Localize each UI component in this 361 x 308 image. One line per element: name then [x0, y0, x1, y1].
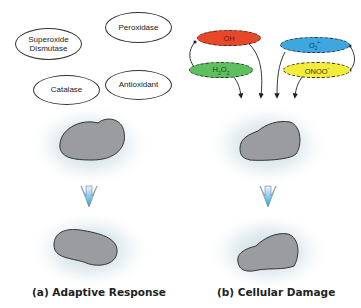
ros-label: ONOO- [305, 65, 330, 76]
caption-adaptive-response: (a) Adaptive Response [32, 286, 166, 298]
ros-superoxide: O2•- [280, 37, 350, 53]
down-arrow-icon-a [81, 186, 97, 207]
enzyme-antioxidant: Antioxidant [105, 70, 172, 100]
ros-label: O2•- [309, 39, 321, 51]
cell-b-top [206, 103, 330, 187]
enzyme-label-line2: Dismutase [30, 44, 68, 53]
enzyme-label: Catalase [51, 85, 83, 94]
ros-label: OH [223, 34, 234, 43]
enzyme-label: Peroxidase [118, 23, 158, 32]
ros-label: H2O2 [213, 65, 230, 76]
enzyme-catalase: Catalase [33, 75, 100, 105]
caption-cellular-damage: (b) Cellular Damage [217, 286, 335, 298]
down-arrow-icon-b [260, 186, 276, 207]
ros-hydroxyl: OH [197, 30, 261, 46]
enzyme-peroxidase: Peroxidase [105, 12, 172, 43]
cell-b-bottom [206, 212, 330, 292]
enzyme-label-line1: Superoxide [28, 35, 68, 44]
cell-a-bottom [28, 210, 152, 290]
enzyme-superoxide-dismutase: SuperoxideDismutase [15, 28, 82, 60]
ros-peroxynitrite: ONOO- [283, 62, 351, 78]
enzyme-label: Antioxidant [119, 80, 159, 89]
cell-a-top [28, 103, 152, 187]
ros-hydrogen-peroxide: H2O2 [189, 62, 253, 78]
